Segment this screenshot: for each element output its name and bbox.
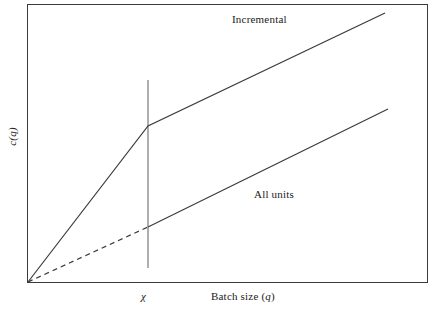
x-axis-tick-label-chi: χ: [141, 291, 146, 302]
x-axis-label: Batch size (q): [211, 291, 275, 302]
y-axis-label-prefix: c(: [6, 137, 18, 146]
y-axis-label-variable: q: [6, 131, 18, 137]
x-axis-label-suffix: ): [271, 290, 275, 302]
y-axis-label: c(q): [7, 117, 18, 157]
y-axis-label-suffix: ): [6, 127, 18, 131]
incremental-line: [28, 13, 385, 282]
all-units-dashed-extrapolation: [28, 227, 148, 282]
chart-plot-area: [0, 0, 441, 312]
all-units-line: [148, 109, 388, 227]
annotation-all-units: All units: [254, 189, 294, 200]
x-axis-label-prefix: Batch size (: [211, 290, 265, 302]
plot-frame: [28, 5, 428, 283]
annotation-incremental: Incremental: [232, 14, 287, 25]
chart-canvas: Incremental All units χ Batch size (q) c…: [0, 0, 441, 312]
